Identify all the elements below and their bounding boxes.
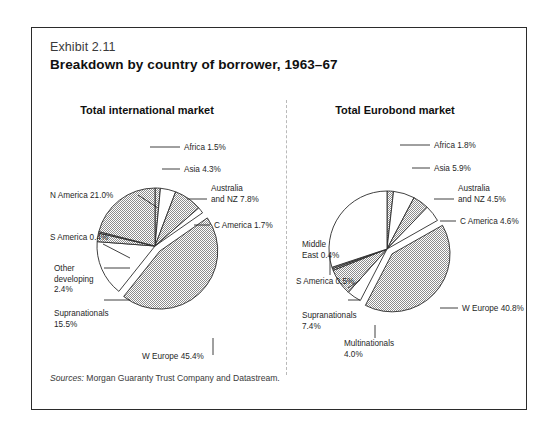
pie-label-w-europe: W Europe 40.8% <box>462 304 524 313</box>
pie-label-w-europe: W Europe 45.4% <box>142 352 204 361</box>
pie-label-c-america: C America 4.6% <box>460 217 519 226</box>
pie-label-multinationals: Multinationals4.0% <box>344 339 394 359</box>
pie-label-supranationals: Supranationals7.4% <box>302 311 357 331</box>
pie-chart-eurobond-svg: Africa 1.8%Asia 5.9%Australiaand NZ 4.5%… <box>282 28 528 411</box>
pie-label-africa: Africa 1.5% <box>184 143 226 152</box>
source-line: Sources: Morgan Guaranty Trust Company a… <box>50 373 280 383</box>
pie-label-asia: Asia 5.9% <box>434 164 471 173</box>
pie-label-s-america: S America 0.4% <box>50 233 108 242</box>
pie-chart-international-svg: Africa 1.5%Asia 4.3%Australiaand NZ 7.8%… <box>32 28 292 411</box>
pie-label-n-america: N America 21.0% <box>50 191 113 200</box>
pie-label-supranationals: Supranationals15.5% <box>54 309 109 329</box>
pie-chart-international: Africa 1.5%Asia 4.3%Australiaand NZ 7.8%… <box>32 28 292 411</box>
pie-label-australia-nz: Australiaand NZ 7.8% <box>211 184 259 204</box>
pie-label-other-developing: Otherdeveloping2.4% <box>54 264 94 294</box>
pie-label-c-america: C America 1.7% <box>214 221 273 230</box>
pie-label-australia-nz: Australiaand NZ 4.5% <box>458 184 506 204</box>
pie-chart-eurobond: Africa 1.8%Asia 5.9%Australiaand NZ 4.5%… <box>282 28 528 411</box>
pie-label-africa: Africa 1.8% <box>434 141 476 150</box>
pie-label-s-america: S America 0.5% <box>296 277 354 286</box>
exhibit-frame: Exhibit 2.11 Breakdown by country of bor… <box>31 27 527 410</box>
source-text: Morgan Guaranty Trust Company and Datast… <box>84 373 280 383</box>
source-label: Sources: <box>50 373 84 383</box>
pie-label-asia: Asia 4.3% <box>184 165 221 174</box>
